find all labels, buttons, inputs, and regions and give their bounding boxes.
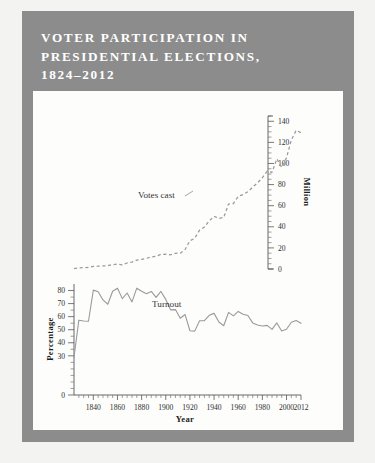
votes-cast-axis-line bbox=[268, 116, 273, 269]
x-tick-label: 1920 bbox=[182, 403, 197, 412]
turnout-y-tick-label: 0 bbox=[61, 391, 65, 400]
turnout-y-tick-label: 30 bbox=[57, 352, 65, 361]
x-tick-label: 1840 bbox=[86, 403, 101, 412]
chart-svg: 020406080100120140 Million Votes cast 03… bbox=[33, 91, 343, 430]
turnout-y-axis-title: Percentage bbox=[45, 317, 55, 360]
votes-cast-tick-label: 80 bbox=[278, 180, 286, 189]
votes-cast-label: Votes cast bbox=[138, 190, 175, 200]
page-title: Voter Participation in Presidential Elec… bbox=[41, 29, 341, 85]
votes-cast-tick-label: 20 bbox=[278, 244, 286, 253]
votes-cast-leader-line bbox=[185, 191, 193, 196]
turnout-label: Turnout bbox=[152, 299, 182, 309]
chart-card: 020406080100120140 Million Votes cast 03… bbox=[33, 91, 343, 430]
turnout-y-tick-label: 60 bbox=[57, 312, 65, 321]
turnout-y-tick-label: 50 bbox=[57, 325, 65, 334]
x-tick-label: 1900 bbox=[158, 403, 173, 412]
turnout-y-ticks bbox=[68, 291, 74, 395]
votes-cast-panel: 020406080100120140 Million Votes cast bbox=[74, 116, 312, 274]
turnout-series-line bbox=[74, 288, 301, 357]
x-tick-label: 2000 bbox=[279, 403, 294, 412]
x-tick-label: 1960 bbox=[231, 403, 246, 412]
x-tick-label: 1940 bbox=[206, 403, 221, 412]
turnout-x-ticks bbox=[79, 395, 301, 400]
turnout-panel: 0304050607080 18401860188019001920194019… bbox=[45, 284, 309, 424]
figure-panel: Voter Participation in Presidential Elec… bbox=[22, 11, 354, 442]
votes-cast-tick-label: 40 bbox=[278, 222, 286, 231]
x-tick-label: 2012 bbox=[293, 403, 308, 412]
votes-cast-ticks bbox=[268, 116, 274, 269]
turnout-y-tick-labels: 0304050607080 bbox=[57, 286, 65, 399]
turnout-y-tick-label: 70 bbox=[57, 299, 65, 308]
turnout-y-tick-label: 80 bbox=[57, 286, 65, 295]
turnout-y-tick-label: 40 bbox=[57, 338, 65, 347]
votes-cast-tick-label: 120 bbox=[278, 138, 290, 147]
votes-cast-axis-title: Million bbox=[302, 178, 312, 207]
x-axis-title: Year bbox=[176, 414, 194, 424]
votes-cast-tick-label: 140 bbox=[278, 117, 290, 126]
votes-cast-tick-labels: 020406080100120140 bbox=[278, 117, 290, 274]
x-tick-label: 1980 bbox=[255, 403, 270, 412]
votes-cast-series-line bbox=[74, 130, 301, 268]
votes-cast-tick-label: 60 bbox=[278, 201, 286, 210]
x-tick-label: 1860 bbox=[110, 403, 125, 412]
figure-page: Voter Participation in Presidential Elec… bbox=[0, 0, 375, 463]
votes-cast-tick-label: 0 bbox=[278, 265, 282, 274]
turnout-x-tick-labels: 1840186018801900192019401960198020002012 bbox=[86, 403, 309, 412]
x-tick-label: 1880 bbox=[134, 403, 149, 412]
